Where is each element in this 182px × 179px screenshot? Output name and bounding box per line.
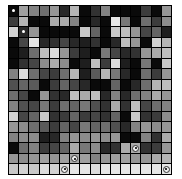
- grid-cell[interactable]: [111, 69, 120, 79]
- grid-cell[interactable]: [152, 6, 161, 16]
- grid-cell[interactable]: [60, 164, 69, 174]
- grid-cell[interactable]: [162, 164, 171, 174]
- grid-cell[interactable]: [50, 154, 59, 164]
- grid-cell[interactable]: [131, 27, 140, 37]
- grid-cell[interactable]: [152, 91, 161, 101]
- grid-cell[interactable]: [91, 6, 100, 16]
- grid-cell[interactable]: [111, 48, 120, 58]
- grid-cell[interactable]: [70, 133, 79, 143]
- grid-cell[interactable]: [19, 154, 28, 164]
- grid-cell[interactable]: [19, 133, 28, 143]
- grid-cell[interactable]: [9, 17, 18, 27]
- grid-cell[interactable]: [141, 154, 150, 164]
- grid-cell[interactable]: [101, 101, 110, 111]
- grid-cell[interactable]: [131, 69, 140, 79]
- grid-cell[interactable]: [121, 101, 130, 111]
- grid-cell[interactable]: [131, 6, 140, 16]
- grid-cell[interactable]: [50, 17, 59, 27]
- grid-cell[interactable]: [111, 80, 120, 90]
- grid-cell[interactable]: [9, 101, 18, 111]
- grid-cell[interactable]: [141, 59, 150, 69]
- grid-cell[interactable]: [60, 154, 69, 164]
- grid-cell[interactable]: [40, 91, 49, 101]
- grid-cell[interactable]: [80, 59, 89, 69]
- grid-cell[interactable]: [121, 80, 130, 90]
- grid-cell[interactable]: [29, 133, 38, 143]
- grid-cell[interactable]: [111, 164, 120, 174]
- grid-cell[interactable]: [91, 38, 100, 48]
- grid-cell[interactable]: [40, 133, 49, 143]
- grid-cell[interactable]: [70, 91, 79, 101]
- grid-cell[interactable]: [121, 6, 130, 16]
- grid-cell[interactable]: [9, 48, 18, 58]
- grid-cell[interactable]: [141, 6, 150, 16]
- grid-cell[interactable]: [50, 80, 59, 90]
- grid-cell[interactable]: [80, 164, 89, 174]
- grid-cell[interactable]: [9, 6, 18, 16]
- grid-cell[interactable]: [50, 133, 59, 143]
- grid-cell[interactable]: [152, 101, 161, 111]
- grid-cell[interactable]: [9, 143, 18, 153]
- grid-cell[interactable]: [70, 48, 79, 58]
- grid-cell[interactable]: [141, 122, 150, 132]
- grid-cell[interactable]: [131, 112, 140, 122]
- grid-cell[interactable]: [162, 48, 171, 58]
- grid-cell[interactable]: [40, 101, 49, 111]
- grid-cell[interactable]: [50, 91, 59, 101]
- grid-cell[interactable]: [60, 17, 69, 27]
- grid-cell[interactable]: [121, 59, 130, 69]
- grid-cell[interactable]: [121, 154, 130, 164]
- grid-cell[interactable]: [152, 154, 161, 164]
- grid-cell[interactable]: [152, 69, 161, 79]
- grid-cell[interactable]: [152, 143, 161, 153]
- grid-cell[interactable]: [141, 80, 150, 90]
- grid-cell[interactable]: [111, 38, 120, 48]
- grid-cell[interactable]: [152, 48, 161, 58]
- grid-cell[interactable]: [162, 133, 171, 143]
- grid-cell[interactable]: [131, 17, 140, 27]
- grid-cell[interactable]: [60, 122, 69, 132]
- grid-cell[interactable]: [91, 164, 100, 174]
- grid-cell[interactable]: [29, 154, 38, 164]
- grid-cell[interactable]: [80, 154, 89, 164]
- grid-cell[interactable]: [70, 80, 79, 90]
- grid-cell[interactable]: [29, 17, 38, 27]
- grid-cell[interactable]: [9, 91, 18, 101]
- grid-cell[interactable]: [152, 122, 161, 132]
- grid-cell[interactable]: [121, 133, 130, 143]
- grid-cell[interactable]: [80, 38, 89, 48]
- grid-cell[interactable]: [162, 27, 171, 37]
- grid-cell[interactable]: [80, 17, 89, 27]
- grid-cell[interactable]: [91, 27, 100, 37]
- grid-cell[interactable]: [162, 17, 171, 27]
- grid-cell[interactable]: [162, 6, 171, 16]
- grid-cell[interactable]: [70, 101, 79, 111]
- grid-cell[interactable]: [29, 69, 38, 79]
- grid-cell[interactable]: [80, 143, 89, 153]
- grid-cell[interactable]: [91, 59, 100, 69]
- grid-cell[interactable]: [70, 17, 79, 27]
- grid-cell[interactable]: [40, 143, 49, 153]
- grid-cell[interactable]: [101, 17, 110, 27]
- grid-cell[interactable]: [19, 91, 28, 101]
- grid-cell[interactable]: [29, 122, 38, 132]
- grid-cell[interactable]: [70, 164, 79, 174]
- grid-cell[interactable]: [152, 38, 161, 48]
- grid-cell[interactable]: [141, 133, 150, 143]
- grid-cell[interactable]: [50, 122, 59, 132]
- grid-cell[interactable]: [19, 38, 28, 48]
- grid-cell[interactable]: [111, 17, 120, 27]
- grid-cell[interactable]: [40, 17, 49, 27]
- grid-cell[interactable]: [19, 80, 28, 90]
- grid-cell[interactable]: [91, 133, 100, 143]
- grid-cell[interactable]: [50, 69, 59, 79]
- grid-cell[interactable]: [101, 112, 110, 122]
- grid-cell[interactable]: [80, 48, 89, 58]
- grid-cell[interactable]: [101, 38, 110, 48]
- grid-cell[interactable]: [29, 101, 38, 111]
- grid-cell[interactable]: [40, 164, 49, 174]
- grid-cell[interactable]: [80, 80, 89, 90]
- grid-cell[interactable]: [29, 59, 38, 69]
- grid-cell[interactable]: [121, 164, 130, 174]
- grid-cell[interactable]: [9, 80, 18, 90]
